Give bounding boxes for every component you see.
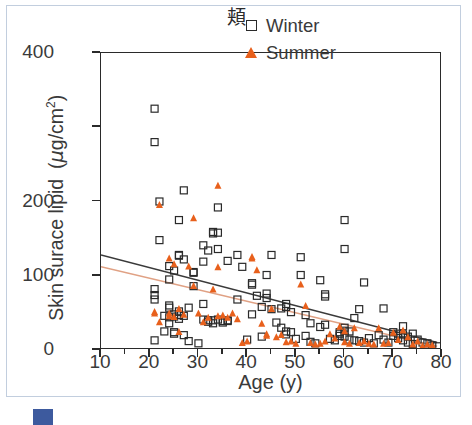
plot-area [100,52,441,349]
data-point-summer [229,309,236,316]
y-tick-mark [92,51,100,53]
data-point-winter [214,246,221,253]
data-point-winter [151,105,158,112]
caption-strip [0,404,472,425]
y-axis-title-mu: μ [45,150,68,162]
x-tick-minor [221,349,223,354]
legend-item-summer: Summer [236,39,339,66]
data-point-summer [214,182,221,189]
x-tick-label: 10 [77,352,123,371]
x-tick-minor [270,349,272,354]
data-point-winter [273,319,280,326]
data-point-winter [341,217,348,224]
winter-square-icon [236,20,266,31]
data-point-summer [287,338,294,345]
data-point-summer [190,214,197,221]
y-axis-title-main: Skin surace lipid ( [45,163,67,321]
data-point-winter [161,328,168,335]
legend-label-summer: Summer [266,42,336,64]
x-tick-label: 70 [369,352,415,371]
x-axis-title: Age (y) [100,371,441,394]
data-point-winter [166,302,173,309]
data-point-winter [214,204,221,211]
data-point-winter [297,272,304,279]
data-point-winter [361,279,368,286]
data-point-winter [175,217,182,224]
caption-figure-badge [33,409,53,425]
plot-canvas [101,53,441,349]
data-point-summer [297,280,304,287]
y-axis-title-close: ) [45,95,67,102]
data-point-winter [200,300,207,307]
legend-item-winter: Winter [236,12,339,39]
x-tick-label: 80 [418,352,464,371]
data-point-winter [380,305,387,312]
data-point-winter [317,323,324,330]
data-point-summer [326,330,333,337]
data-point-summer [244,338,251,345]
x-tick-minor [367,349,369,354]
y-axis-title-exponent: 2 [44,101,58,108]
data-point-winter [234,251,241,258]
data-point-winter [322,291,329,298]
x-tick-label: 20 [126,352,172,371]
data-point-winter [356,306,363,313]
data-point-winter [200,258,207,265]
data-point-winter [249,311,256,318]
x-tick-minor [416,349,418,354]
x-tick-minor [172,349,174,354]
x-tick-label: 40 [223,352,269,371]
x-tick-label: 30 [174,352,220,371]
data-point-summer [322,338,329,345]
data-point-summer [219,312,226,319]
y-axis-title-unit: g/cm [45,108,67,150]
data-point-winter [185,304,192,311]
data-point-winter [341,246,348,253]
data-point-summer [210,286,217,293]
chart-legend: Winter Summer [236,12,339,66]
y-tick-mark [92,200,100,202]
data-point-winter [224,257,231,264]
data-point-winter [317,277,324,284]
data-point-summer [253,266,260,273]
x-tick-label: 60 [321,352,367,371]
data-point-winter [307,320,314,327]
data-point-summer [214,263,221,270]
data-point-summer [302,302,309,309]
data-point-summer [166,254,173,261]
x-tick-label: 50 [272,352,318,371]
data-point-winter [268,251,275,258]
y-tick-label: 100 [0,265,54,284]
data-point-winter [151,337,158,344]
data-point-winter [205,247,212,254]
data-point-winter [322,293,329,300]
y-tick-label: 400 [0,42,54,61]
data-point-winter [180,187,187,194]
figure-root: 頬 Skin surace lipid (μg/cm2) Age (y) Win… [0,0,472,425]
data-point-summer [185,263,192,270]
summer-triangle-icon [236,47,266,58]
legend-label-winter: Winter [266,15,319,37]
data-point-winter [263,272,270,279]
x-tick-minor [124,349,126,354]
data-point-summer [195,309,202,316]
y-tick-label: 200 [0,191,54,210]
y-tick-mark [92,274,100,276]
data-point-winter [239,263,246,270]
y-tick-label: 0 [0,339,54,358]
data-point-winter [151,296,158,303]
data-point-winter [263,290,270,297]
y-tick-mark [92,125,100,127]
data-point-winter [151,139,158,146]
data-point-winter [200,242,207,249]
data-point-summer [258,320,265,327]
data-point-winter [156,237,163,244]
x-tick-minor [318,349,320,354]
data-point-winter [322,321,329,328]
data-point-winter [195,340,202,347]
data-point-winter [297,254,304,261]
